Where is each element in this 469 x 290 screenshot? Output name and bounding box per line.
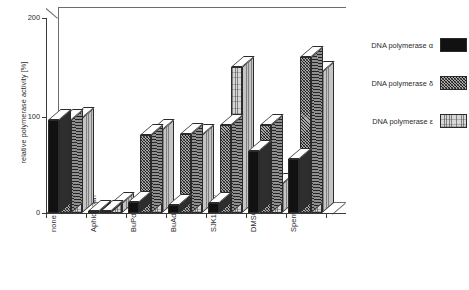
bar-front-face xyxy=(288,159,299,213)
bar-side-face xyxy=(322,61,334,213)
bar-side-face xyxy=(162,120,174,213)
bar-front-face xyxy=(168,205,179,213)
x-tick-mark xyxy=(326,214,327,218)
y-tick-label-100: 100 xyxy=(14,112,40,121)
legend-label: DNA polymerase δ xyxy=(371,79,433,88)
bar-side-face xyxy=(311,47,323,213)
legend: DNA polymerase αDNA polymerase δDNA poly… xyxy=(358,38,469,138)
plot-area xyxy=(46,18,346,214)
bar-side-face xyxy=(82,108,94,213)
bar-front-face xyxy=(248,151,259,213)
legend-swatch-solid-black-swatch xyxy=(440,38,467,52)
frame-top-left-diagonal xyxy=(46,7,60,19)
legend-row: DNA polymerase δ xyxy=(358,76,469,98)
x-tick-mark xyxy=(206,214,207,218)
y-tick-label-0: 0 xyxy=(14,208,40,217)
bar-front-face xyxy=(208,203,219,213)
y-tick-label-200: 200 xyxy=(14,13,40,22)
bar-side-face xyxy=(259,140,271,213)
bar-chart-figure: relative polymerase activity [%] 200 100… xyxy=(0,0,469,290)
x-tick-mark xyxy=(126,214,127,218)
legend-swatch-cross-hatch-swatch xyxy=(440,76,467,90)
bar-front-face xyxy=(100,211,111,213)
legend-row: DNA polymerase ε xyxy=(358,114,469,136)
bar-side-face xyxy=(151,125,163,213)
bar-front-face xyxy=(88,211,99,213)
bar-side-face xyxy=(59,110,71,213)
x-tick-mark xyxy=(46,214,47,218)
legend-label: DNA polymerase α xyxy=(371,41,433,50)
x-tick-mark xyxy=(86,214,87,218)
x-tick-mark xyxy=(246,214,247,218)
x-tick-mark xyxy=(166,214,167,218)
bar-side-face xyxy=(71,110,83,213)
legend-row: DNA polymerase α xyxy=(358,38,469,60)
bar-side-face xyxy=(231,115,243,213)
bar-side-face xyxy=(191,124,203,213)
x-axis-label-none: none xyxy=(49,215,58,232)
y-axis-line xyxy=(46,18,47,214)
bar-front-face xyxy=(128,202,139,213)
bar-front-face xyxy=(48,120,59,213)
bar-side-face xyxy=(299,149,311,213)
frame-top-back-edge xyxy=(58,7,346,8)
bar-side-face xyxy=(271,115,283,213)
x-tick-mark xyxy=(286,214,287,218)
legend-swatch-stipple-swatch xyxy=(440,114,467,128)
legend-label: DNA polymerase ε xyxy=(372,117,433,126)
